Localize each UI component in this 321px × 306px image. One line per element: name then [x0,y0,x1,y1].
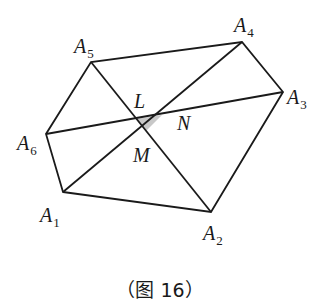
figure-caption: （图 16） [116,279,203,301]
point-label-n: N [176,112,192,134]
point-label-m: M [132,144,151,166]
hexagon-diagram: A1A2A3A4A5A6 LNM （图 16） [0,0,321,306]
vertex-label-a1: A1 [38,204,60,230]
vertex-label-a4: A4 [232,14,254,40]
diagonal-a5-a2 [91,62,211,212]
diagonal-a6-a3 [46,92,283,134]
vertex-label-a2: A2 [201,222,223,248]
vertex-label-a6: A6 [15,132,37,158]
vertex-label-a3: A3 [285,86,307,112]
vertex-label-a5: A5 [72,35,94,61]
point-label-l: L [133,90,145,112]
